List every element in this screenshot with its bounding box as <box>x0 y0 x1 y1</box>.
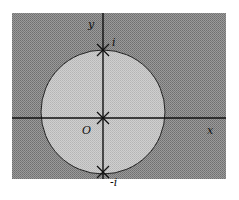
x-axis-label: x <box>207 124 214 137</box>
point-i-label: i <box>112 36 116 49</box>
point-minus-i-label: -i <box>110 176 117 189</box>
origin-label: O <box>82 124 91 137</box>
y-axis-label: y <box>87 18 95 31</box>
complex-plane-diagram: y x O i -i <box>0 0 239 200</box>
